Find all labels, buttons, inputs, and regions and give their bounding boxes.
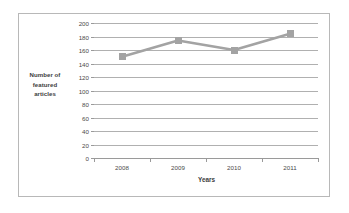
y-tick-label: 40 xyxy=(82,128,89,135)
x-tick-mark xyxy=(262,159,263,162)
data-point-2008 xyxy=(119,53,126,60)
data-point-2010 xyxy=(231,47,238,54)
x-tick-label: 2009 xyxy=(171,164,185,171)
x-tick-mark xyxy=(94,159,95,162)
x-tick-mark xyxy=(206,159,207,162)
y-tick-label: 120 xyxy=(79,74,89,81)
data-point-2009 xyxy=(175,37,182,44)
x-tick-mark xyxy=(318,159,319,162)
x-tick-label: 2011 xyxy=(283,164,296,171)
y-tick-label: 80 xyxy=(82,101,89,108)
y-axis-title: Number of featured articles xyxy=(20,70,70,99)
y-tick-label: 160 xyxy=(79,47,89,54)
x-tick-mark xyxy=(150,159,151,162)
y-axis-title-line-1: Number of xyxy=(20,70,70,80)
y-axis-title-line-3: articles xyxy=(20,89,70,99)
y-tick-label: 20 xyxy=(82,141,89,148)
y-tick-label: 180 xyxy=(79,33,89,40)
y-axis-title-line-2: featured xyxy=(20,80,70,90)
x-axis-title: Years xyxy=(94,176,319,183)
y-tick-label: 0 xyxy=(86,155,89,162)
plot-area: 020406080100120140160180200 xyxy=(94,23,318,158)
y-tick-label: 140 xyxy=(79,60,89,67)
y-tick-label: 100 xyxy=(79,87,89,94)
y-tick-label: 200 xyxy=(79,20,89,27)
data-point-2011 xyxy=(287,30,294,37)
x-tick-label: 2010 xyxy=(227,164,241,171)
x-tick-label: 2008 xyxy=(115,164,129,171)
series-line xyxy=(94,23,318,158)
y-tick-label: 60 xyxy=(82,114,89,121)
